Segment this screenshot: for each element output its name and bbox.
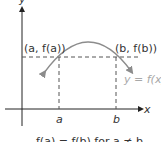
point-b-label: (b, f(b)) — [115, 42, 157, 55]
tick-b-label: b — [113, 113, 120, 126]
curve-label: y = f(x) — [123, 73, 161, 86]
caption: f(a) = f(b) for a ≠ b — [36, 135, 143, 142]
point-a-label: (a, f(a)) — [24, 42, 66, 55]
tick-a-label: a — [56, 113, 63, 126]
x-axis-label: x — [143, 103, 151, 116]
function-graph: y x (a, f(a)) (b, f(b)) y = f(x) a b f(a… — [0, 0, 161, 142]
y-axis-label: y — [18, 0, 26, 6]
